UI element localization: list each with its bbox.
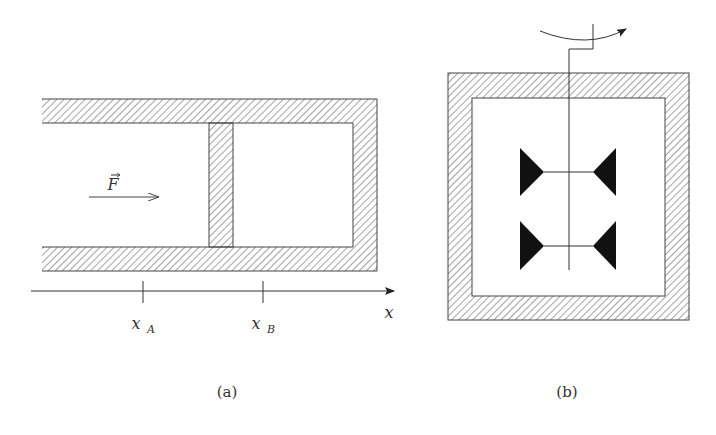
force-vector: F [89, 173, 159, 197]
tick-label-a-sub: A [146, 323, 155, 336]
rotation-arrow-icon [540, 29, 626, 40]
caption-a: (a) [217, 383, 238, 401]
cylinder-top-wall [42, 99, 377, 123]
stirrer-shaft [569, 24, 593, 270]
tick-label-a: x [131, 314, 140, 333]
blade-icon [520, 221, 544, 270]
blade-icon [593, 221, 616, 270]
cylinder-bottom-wall [42, 247, 377, 271]
force-label: F [106, 175, 119, 194]
figure-b: (b) [448, 24, 689, 401]
caption-b: (b) [556, 383, 577, 401]
x-axis: x x A x B [31, 281, 394, 336]
impeller-upper [520, 148, 616, 196]
axis-label: x [384, 303, 393, 322]
cylinder-end-wall [353, 99, 377, 271]
tick-label-b-sub: B [266, 323, 275, 336]
impeller-lower [520, 221, 616, 270]
diagram-canvas: F x x A x B (a) [0, 0, 716, 435]
blade-icon [593, 148, 616, 196]
tick-label-b: x [251, 314, 260, 333]
blade-icon [520, 148, 544, 196]
figure-a: F x x A x B (a) [31, 99, 394, 401]
piston [209, 123, 233, 247]
